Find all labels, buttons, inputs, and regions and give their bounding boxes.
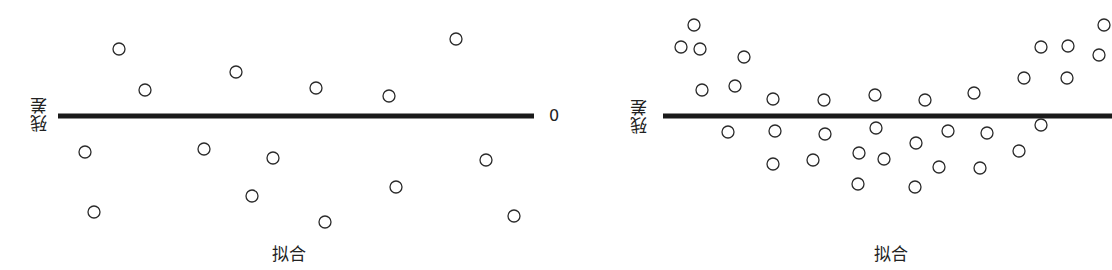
- data-point: [310, 82, 322, 94]
- data-point: [767, 93, 779, 105]
- data-point: [79, 146, 91, 158]
- data-point: [853, 147, 865, 159]
- data-point: [1093, 49, 1105, 61]
- data-point: [769, 125, 781, 137]
- data-point: [383, 90, 395, 102]
- data-point: [1013, 145, 1025, 157]
- data-point: [688, 19, 700, 31]
- data-point: [1018, 72, 1030, 84]
- data-point: [818, 94, 830, 106]
- data-point: [942, 125, 954, 137]
- data-point: [246, 190, 258, 202]
- scatter-area-right: [556, 0, 1112, 270]
- data-point: [113, 43, 125, 55]
- x-axis-label-left: 拟合: [272, 240, 306, 265]
- data-point: [198, 143, 210, 155]
- data-point: [738, 51, 750, 63]
- data-point: [1035, 119, 1047, 131]
- x-axis-label-right: 拟合: [874, 240, 908, 265]
- data-point: [480, 154, 492, 166]
- data-point: [767, 158, 779, 170]
- data-point: [1062, 40, 1074, 52]
- data-point: [390, 181, 402, 193]
- data-point: [1061, 72, 1073, 84]
- data-point: [878, 153, 890, 165]
- data-point: [675, 41, 687, 53]
- data-point: [852, 178, 864, 190]
- data-point: [807, 154, 819, 166]
- data-point: [696, 84, 708, 96]
- data-point: [981, 127, 993, 139]
- data-point: [974, 162, 986, 174]
- data-point: [869, 89, 881, 101]
- data-point: [722, 126, 734, 138]
- data-point: [88, 206, 100, 218]
- y-axis-label-right: 残差: [626, 98, 651, 134]
- data-point: [729, 80, 741, 92]
- data-point: [267, 152, 279, 164]
- data-point: [508, 210, 520, 222]
- data-point: [450, 33, 462, 45]
- data-point: [909, 181, 921, 193]
- residual-plot-random: 残差 拟合 0: [0, 0, 556, 270]
- y-axis-label-left: 残差: [26, 96, 51, 132]
- data-point: [694, 43, 706, 55]
- residual-plot-curved: 残差 拟合: [556, 0, 1112, 270]
- data-point: [919, 94, 931, 106]
- data-point: [1035, 41, 1047, 53]
- data-point: [319, 216, 331, 228]
- data-point: [968, 87, 980, 99]
- data-point: [910, 137, 922, 149]
- scatter-area-left: [0, 0, 556, 270]
- data-point: [819, 128, 831, 140]
- data-point: [870, 122, 882, 134]
- data-point: [139, 84, 151, 96]
- data-point: [933, 161, 945, 173]
- data-point: [1098, 19, 1110, 31]
- data-point: [230, 66, 242, 78]
